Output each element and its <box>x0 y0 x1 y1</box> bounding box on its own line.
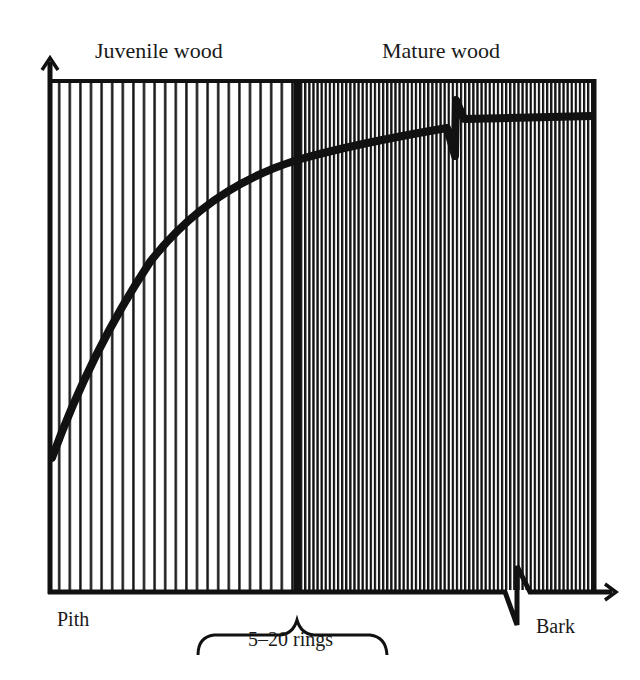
bark-label: Bark <box>536 615 575 638</box>
juvenile-wood-zone <box>52 82 297 590</box>
pith-label: Pith <box>57 608 89 631</box>
mature-wood-label: Mature wood <box>382 38 500 64</box>
rings-annotation: 5–20 rings <box>248 628 333 651</box>
juvenile-wood-label: Juvenile wood <box>95 38 223 64</box>
juvenile-mature-wood-diagram <box>0 0 640 680</box>
mature-wood-zone <box>299 82 593 590</box>
